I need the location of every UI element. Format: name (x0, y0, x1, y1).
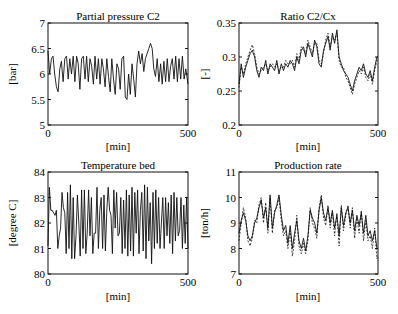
y-tick-label: 0.25 (217, 85, 237, 97)
y-axis-label: [degree C] (6, 200, 18, 247)
y-tick-label: 80 (34, 268, 46, 280)
x-tick-label: 0 (45, 127, 51, 139)
series-measured (48, 185, 188, 264)
x-tick-label: 0 (236, 127, 242, 139)
x-tick-label: 500 (370, 276, 387, 288)
chart-title: Partial pressure C2 (76, 10, 160, 22)
chart-title: Production rate (274, 159, 342, 171)
y-axis-label: [ton/h] (198, 208, 210, 238)
plot-frame (239, 172, 378, 274)
panel-ratio: Ratio C2/Cx [min] [-] 0.20.250.30.350500 (198, 10, 387, 152)
y-tick-label: 83 (34, 192, 46, 204)
y-tick-label: 6 (40, 68, 46, 80)
series-model (239, 33, 378, 94)
x-tick-label: 0 (45, 276, 51, 288)
y-tick-label: 0.2 (222, 119, 236, 131)
y-tick-label: 82 (34, 217, 45, 229)
y-tick-label: 0.3 (222, 51, 236, 63)
x-axis-label: [min] (296, 140, 320, 152)
y-tick-label: 81 (34, 243, 45, 255)
y-tick-label: 10 (225, 192, 237, 204)
x-tick-label: 0 (236, 276, 242, 288)
panel-partial-pressure: Partial pressure C2 [min] [bar] 55.566.5… (6, 10, 197, 152)
y-axis-label: [-] (198, 69, 210, 80)
panel-production-rate: Production rate [min] [ton/h] 7891011050… (198, 159, 387, 302)
x-axis-label: [min] (106, 140, 130, 152)
chart-title: Temperature bed (81, 159, 156, 171)
x-tick-label: 500 (180, 276, 197, 288)
y-tick-label: 0.35 (217, 17, 237, 29)
series-measured (239, 30, 378, 91)
x-tick-label: 500 (370, 127, 387, 139)
y-axis-label: [bar] (6, 63, 18, 84)
series-measured (239, 195, 378, 251)
x-axis-label: [min] (106, 290, 130, 302)
x-axis-label: [min] (296, 290, 320, 302)
chart-title: Ratio C2/Cx (280, 10, 336, 22)
y-tick-label: 6.5 (31, 43, 45, 55)
series-measured (48, 43, 188, 99)
y-tick-label: 5.5 (31, 94, 45, 106)
x-tick-label: 500 (180, 127, 197, 139)
y-tick-label: 7 (40, 17, 46, 29)
y-tick-label: 11 (225, 166, 236, 178)
y-tick-label: 8 (231, 243, 237, 255)
y-tick-label: 9 (231, 217, 237, 229)
panel-temperature-bed: Temperature bed [min] [degree C] 8081828… (6, 159, 197, 302)
y-tick-label: 84 (34, 166, 46, 178)
figure-canvas: Partial pressure C2 [min] [bar] 55.566.5… (0, 0, 398, 314)
